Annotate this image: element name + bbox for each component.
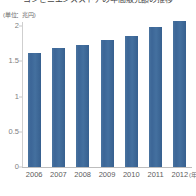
bar-2010: [125, 36, 138, 167]
y-tick-label: 1.5: [9, 57, 19, 65]
bar-2007: [52, 48, 65, 167]
bar-2012: [173, 21, 186, 167]
x-tick-label: 2006: [26, 170, 43, 180]
x-tick-label: 2008: [74, 170, 91, 180]
y-tick-label: 0.5: [9, 128, 19, 136]
x-axis-unit-label: (年): [189, 171, 196, 180]
x-tick-label: 2009: [99, 170, 116, 180]
bar-chart: コンビニエンスストアの年間販売額の推移 (単位：兆円) 00.511.52 20…: [0, 0, 196, 196]
bar-2008: [76, 45, 89, 167]
bar-2006: [28, 53, 41, 167]
x-tick-label: 2011: [147, 170, 163, 180]
bars-layer: [22, 0, 192, 167]
x-axis-ticks: 2006200720082009201020112012: [22, 170, 192, 182]
x-axis-line: [22, 167, 192, 168]
x-tick-label: 2010: [123, 170, 140, 180]
x-tick-label: 2012: [172, 170, 189, 180]
bar-2009: [101, 40, 114, 167]
x-tick-label: 2007: [50, 170, 67, 180]
bar-2011: [149, 27, 162, 167]
